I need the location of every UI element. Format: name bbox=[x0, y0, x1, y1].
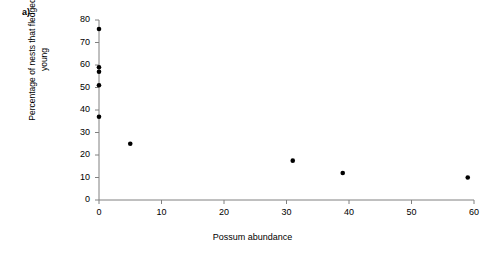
data-point-group bbox=[97, 27, 470, 180]
y-tick-label: 80 bbox=[66, 15, 90, 24]
data-point bbox=[97, 114, 102, 119]
tick-marks bbox=[95, 20, 474, 204]
data-point bbox=[97, 65, 102, 70]
x-tick-label: 10 bbox=[150, 208, 174, 217]
y-tick-label: 40 bbox=[66, 105, 90, 114]
data-point bbox=[97, 27, 102, 32]
data-point bbox=[128, 141, 133, 146]
x-tick-label: 40 bbox=[337, 208, 361, 217]
y-tick-label: 50 bbox=[66, 83, 90, 92]
y-tick-label: 10 bbox=[66, 173, 90, 182]
x-tick-label: 60 bbox=[462, 208, 486, 217]
axis-lines bbox=[99, 20, 474, 200]
x-tick-label: 50 bbox=[400, 208, 424, 217]
data-point bbox=[290, 158, 295, 163]
data-point bbox=[97, 69, 102, 74]
x-tick-label: 0 bbox=[87, 208, 111, 217]
x-tick-label: 20 bbox=[212, 208, 236, 217]
data-point bbox=[97, 83, 102, 88]
y-tick-label: 0 bbox=[66, 195, 90, 204]
y-tick-label: 60 bbox=[66, 60, 90, 69]
y-tick-label: 20 bbox=[66, 150, 90, 159]
x-tick-label: 30 bbox=[275, 208, 299, 217]
data-point bbox=[465, 175, 470, 180]
y-tick-label: 30 bbox=[66, 128, 90, 137]
y-tick-label: 70 bbox=[66, 38, 90, 47]
figure-panel: a) Percentage of nests that fledged youn… bbox=[0, 0, 503, 255]
data-point bbox=[340, 171, 345, 176]
